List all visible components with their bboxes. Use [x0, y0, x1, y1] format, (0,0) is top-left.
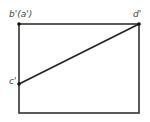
- projection-frame: [19, 24, 139, 113]
- label-b-a: b'(a'): [9, 9, 32, 19]
- point-b-a: [17, 22, 21, 26]
- point-c: [17, 82, 21, 86]
- projection-diagram: b'(a') d' c': [0, 0, 150, 122]
- segment-c-d: [19, 24, 139, 84]
- point-d: [137, 22, 141, 26]
- label-c: c': [9, 76, 16, 86]
- label-d: d': [133, 9, 141, 19]
